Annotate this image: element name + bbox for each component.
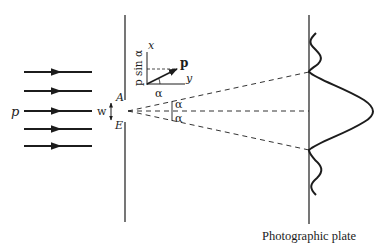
inset-x-label: x [148,39,155,52]
incident-beam [24,72,92,146]
inset-y-label: y [185,72,193,85]
incident-momentum-label: p [11,104,20,119]
inset-angle-arc [159,78,161,84]
inset-momentum-vector [147,69,177,84]
ray-lower-minimum [128,111,309,150]
slit-top-edge-label: A [115,91,124,104]
angle-label-upper: α [175,98,183,111]
intensity-curve [309,33,373,195]
inset-vector-label: p [180,56,188,70]
inset-angle-label: α [155,87,163,100]
diffraction-diagram: p A E w α α x p y α p sin α Photographic… [0,0,386,250]
plate-caption: Photographic plate [262,229,357,243]
angle-label-lower: α [175,112,183,125]
inset-component-label: p sin α [132,50,144,86]
slit-bottom-edge-label: E [114,119,123,132]
slit-width-label: w [97,105,107,118]
